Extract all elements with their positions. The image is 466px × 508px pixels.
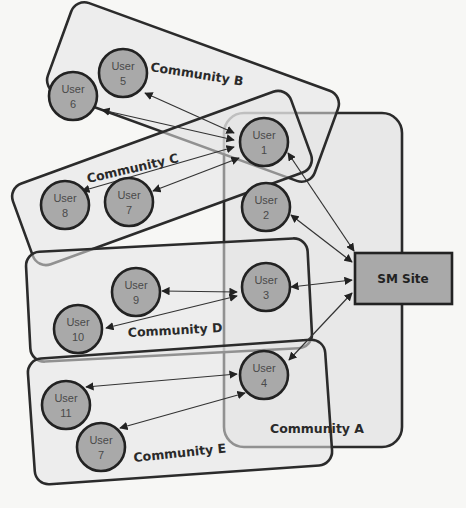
svg-text:8: 8 [62, 207, 68, 219]
svg-text:4: 4 [261, 377, 267, 389]
user-node-7-community-c: User 7 [105, 178, 153, 226]
svg-text:User: User [53, 192, 77, 204]
svg-text:User: User [117, 189, 141, 201]
svg-text:9: 9 [133, 294, 139, 306]
community-diagram: Community B Community C Community D Comm… [0, 0, 466, 508]
user-node-11: User 11 [42, 381, 90, 429]
svg-text:7: 7 [126, 204, 132, 216]
svg-text:User: User [124, 279, 148, 291]
user-node-8: User 8 [41, 181, 89, 229]
user-node-1: User 1 [240, 118, 288, 166]
svg-text:User: User [252, 362, 276, 374]
user-node-5: User 5 [99, 49, 147, 97]
svg-text:11: 11 [60, 407, 71, 419]
user-node-10: User 10 [54, 305, 102, 353]
user-node-7-community-e: User 7 [77, 423, 125, 471]
user-node-9: User 9 [112, 268, 160, 316]
user-node-4: User 4 [240, 351, 288, 399]
svg-text:10: 10 [72, 331, 84, 343]
svg-text:3: 3 [263, 289, 269, 301]
svg-text:User: User [252, 129, 276, 141]
sm-site-label: SM Site [377, 272, 428, 286]
svg-text:User: User [254, 274, 278, 286]
svg-text:2: 2 [263, 209, 269, 221]
user-node-2: User 2 [242, 183, 290, 231]
user-node-6: User 6 [49, 72, 97, 120]
svg-text:5: 5 [120, 75, 126, 87]
svg-text:User: User [61, 83, 85, 95]
svg-text:User: User [66, 316, 90, 328]
svg-text:1: 1 [261, 144, 267, 156]
svg-text:7: 7 [98, 449, 104, 461]
svg-text:User: User [254, 194, 278, 206]
svg-text:User: User [54, 392, 78, 404]
svg-text:User: User [89, 434, 113, 446]
community-a-label: Community A [270, 421, 364, 436]
sm-site-box: SM Site [355, 253, 452, 304]
svg-text:User: User [111, 60, 135, 72]
svg-text:6: 6 [70, 98, 76, 110]
user-node-3: User 3 [242, 263, 290, 311]
